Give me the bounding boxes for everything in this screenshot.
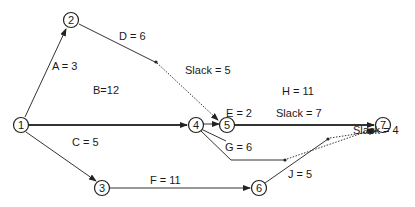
node-5: 5 [220, 118, 235, 133]
slack-j-label: Slack = 4 [353, 125, 399, 136]
node-6: 6 [252, 181, 267, 196]
activity-j-end-dot [326, 137, 329, 140]
node-4: 4 [189, 118, 204, 133]
network-diagram: 1 2 3 4 5 6 7 [0, 0, 415, 207]
activity-d-label: D = 6 [119, 31, 146, 42]
activity-g-label: G = 6 [225, 142, 252, 153]
activity-c-label: C = 5 [72, 137, 99, 148]
svg-text:4: 4 [193, 119, 199, 131]
slack-d-label: Slack = 5 [185, 65, 231, 76]
svg-text:6: 6 [256, 182, 262, 194]
activity-b-label: B=12 [93, 85, 119, 96]
slack-g-label: Slack = 7 [276, 108, 322, 119]
node-2: 2 [64, 13, 79, 28]
activity-a-label: A = 3 [52, 61, 77, 72]
activity-h-label: H = 11 [282, 86, 314, 97]
svg-text:1: 1 [18, 119, 24, 131]
activity-e-label: E = 2 [226, 108, 252, 119]
node-3: 3 [95, 181, 110, 196]
activity-a-arrow [25, 29, 66, 117]
svg-text:3: 3 [99, 182, 105, 194]
svg-text:5: 5 [224, 119, 230, 131]
activity-j-label: J = 5 [288, 169, 312, 180]
node-1: 1 [14, 118, 29, 133]
activity-g-end-dot [283, 158, 286, 161]
svg-text:2: 2 [68, 14, 74, 26]
activity-f-label: F = 11 [150, 175, 181, 186]
